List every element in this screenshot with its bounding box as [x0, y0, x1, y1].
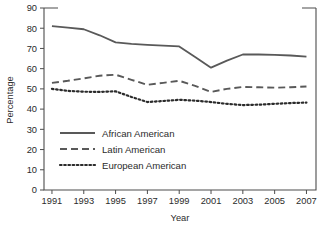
x-tick-label: 1991	[42, 196, 63, 206]
y-tick-label: 60	[27, 64, 37, 74]
y-tick-label: 40	[27, 104, 37, 114]
legend-label-african-american: African American	[102, 128, 175, 139]
y-tick-label: 0	[32, 185, 37, 195]
y-tick-label: 50	[27, 84, 37, 94]
line-chart-svg: 0102030405060708090 19911993199519971999…	[0, 0, 333, 233]
y-tick-label: 30	[27, 125, 37, 135]
x-tick-label: 1993	[73, 196, 94, 206]
x-tick-label: 1999	[169, 196, 190, 206]
y-tick-label: 20	[27, 145, 37, 155]
x-tick-label: 2003	[232, 196, 253, 206]
x-tick-label: 2007	[296, 196, 317, 206]
x-tick-label: 1997	[137, 196, 158, 206]
y-tick-label: 90	[27, 3, 37, 13]
x-tick-label: 2005	[264, 196, 285, 206]
x-tick-label: 2001	[201, 196, 222, 206]
legend-label-latin-american: Latin American	[102, 144, 165, 155]
y-tick-label: 10	[27, 165, 37, 175]
legend-label-european-american: European American	[102, 160, 186, 171]
y-tick-label: 70	[27, 44, 37, 54]
y-tick-label: 80	[27, 24, 37, 34]
y-axis-title: Percentage	[5, 76, 15, 124]
x-tick-label: 1995	[105, 196, 126, 206]
chart-figure: 0102030405060708090 19911993199519971999…	[0, 0, 333, 233]
x-axis-title: Year	[171, 213, 190, 223]
